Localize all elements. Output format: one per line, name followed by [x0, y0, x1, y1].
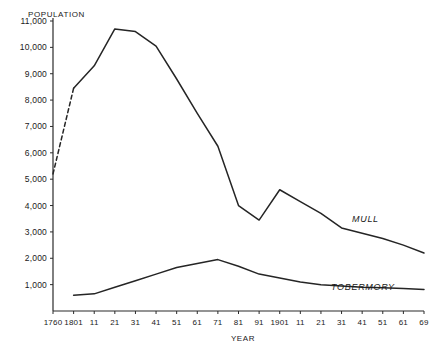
x-tick-label: 61 — [193, 318, 203, 327]
x-tick-label: 61 — [399, 318, 409, 327]
x-tick-label: 81 — [234, 318, 244, 327]
x-tick-label: 11 — [90, 318, 99, 327]
x-tick-label: 1801 — [64, 318, 83, 327]
x-tick-label: 51 — [378, 318, 388, 327]
chart-canvas: 11,00010,0009,0008,0007,0006,0005,0004,0… — [0, 0, 433, 349]
y-tick-label: 7,000 — [25, 121, 47, 131]
y-axis: 11,00010,0009,0008,0007,0006,0005,0004,0… — [20, 10, 85, 311]
x-tick-label: 11 — [296, 318, 305, 327]
y-tick-label: 6,000 — [25, 148, 47, 158]
y-tick-label: 8,000 — [25, 95, 47, 105]
series-label-mull: MULL — [352, 214, 379, 224]
x-tick-label: 1760 — [44, 318, 63, 327]
x-tick-label: 71 — [213, 318, 223, 327]
x-axis-title: YEAR — [231, 334, 255, 343]
y-tick-label: 1,000 — [25, 280, 47, 290]
x-tick-label: 51 — [172, 318, 182, 327]
x-axis: 1760180111213141516171819119011121314151… — [44, 311, 429, 343]
x-axis-tick-labels: 1760180111213141516171819119011121314151… — [44, 318, 429, 327]
population-line-chart: 11,00010,0009,0008,0007,0006,0005,0004,0… — [0, 0, 433, 349]
x-tick-label: 91 — [254, 318, 264, 327]
series-group — [53, 29, 424, 295]
y-tick-label: 9,000 — [25, 69, 47, 79]
y-tick-label: 3,000 — [25, 227, 47, 237]
series-label-tobermory: TOBERMORY — [331, 282, 395, 292]
y-tick-label: 10,000 — [20, 42, 47, 52]
y-tick-label: 4,000 — [25, 201, 47, 211]
x-tick-label: 69 — [419, 318, 429, 327]
x-tick-label: 21 — [316, 318, 326, 327]
x-tick-label: 31 — [131, 318, 141, 327]
y-tick-label: 5,000 — [25, 174, 47, 184]
y-axis-tick-labels: 11,00010,0009,0008,0007,0006,0005,0004,0… — [20, 16, 47, 290]
x-tick-label: 1901 — [270, 318, 289, 327]
x-tick-label: 41 — [358, 318, 368, 327]
series-line-mull-estimated — [53, 88, 74, 174]
x-tick-label: 21 — [110, 318, 120, 327]
y-tick-label: 2,000 — [25, 253, 47, 263]
x-tick-label: 41 — [151, 318, 161, 327]
x-tick-label: 31 — [337, 318, 347, 327]
y-axis-title: POPULATION — [28, 10, 85, 19]
